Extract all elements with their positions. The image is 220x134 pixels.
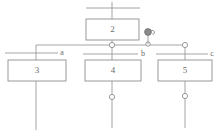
single-line-diagram: 2345 abc: [0, 0, 220, 134]
node-bus-center: [109, 42, 114, 47]
box-2: 2: [86, 19, 139, 40]
label-b: b: [141, 49, 145, 58]
label-a: a: [60, 48, 64, 57]
box-3: 3: [8, 60, 66, 81]
box-5-label: 5: [183, 65, 188, 75]
annotation-marker-group: [145, 29, 155, 44]
box-3-label: 3: [35, 65, 40, 75]
node-box5-out: [182, 93, 187, 98]
marker-swirl-icon: [145, 29, 152, 36]
diagram-canvas: 2345 abc: [0, 0, 220, 134]
boxes-group: 2345: [8, 19, 212, 81]
node-bus-right: [182, 42, 187, 47]
branch-labels-group: abc: [60, 48, 214, 58]
node-box4-out: [109, 94, 114, 99]
box-5: 5: [158, 60, 212, 81]
box-4: 4: [85, 60, 141, 81]
label-c: c: [210, 49, 214, 58]
box-2-label: 2: [110, 24, 115, 34]
box-4-label: 4: [111, 65, 116, 75]
